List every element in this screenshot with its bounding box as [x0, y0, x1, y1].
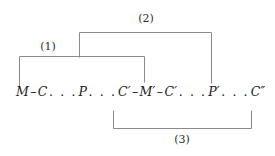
sequence-symbol: P	[78, 84, 87, 99]
bracket-sequence-figure: (1) (2) (3) M–C. . .P. . .C′–M′–C′. . .P…	[0, 0, 275, 156]
sequence-ellipsis: . . .	[177, 84, 208, 99]
bracket-3-line	[114, 111, 252, 129]
bracket-3-label: (3)	[174, 134, 190, 145]
sequence-symbol: M′	[140, 84, 156, 99]
sequence-dash: –	[131, 84, 140, 99]
sequence-ellipsis: . . .	[48, 84, 79, 99]
sequence-symbol: C′	[164, 84, 177, 99]
sequence-symbol: M	[16, 84, 29, 99]
sequence-symbol: C	[38, 84, 48, 99]
sequence-ellipsis: . . .	[87, 84, 118, 99]
sequence-expression: M–C. . .P. . .C′–M′–C′. . .P′. . .C″	[16, 86, 265, 99]
sequence-ellipsis: . . .	[220, 84, 251, 99]
bracket-1-label: (1)	[40, 41, 56, 52]
sequence-dash: –	[29, 84, 38, 99]
sequence-symbol: C′	[118, 84, 131, 99]
bracket-2-line	[80, 33, 212, 84]
sequence-symbol: P′	[208, 84, 220, 99]
bracket-2-label: (2)	[138, 13, 154, 24]
sequence-symbol: C″	[251, 84, 266, 99]
